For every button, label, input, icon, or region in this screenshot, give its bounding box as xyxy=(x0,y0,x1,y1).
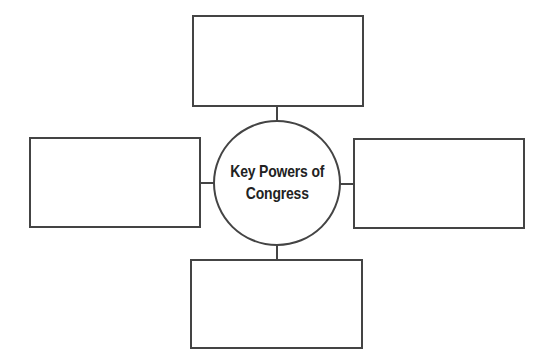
center-label-line2: Congress xyxy=(230,183,324,205)
connector-left xyxy=(200,182,214,184)
connector-top xyxy=(276,106,278,121)
top-box[interactable] xyxy=(192,15,364,107)
center-circle: Key Powers of Congress xyxy=(213,120,341,246)
center-label: Key Powers of Congress xyxy=(230,161,324,205)
left-box[interactable] xyxy=(29,137,201,228)
connector-right xyxy=(340,183,354,185)
connector-bottom xyxy=(276,244,278,260)
bottom-box[interactable] xyxy=(190,259,363,349)
right-box[interactable] xyxy=(353,138,525,229)
center-label-line1: Key Powers of xyxy=(230,161,324,183)
